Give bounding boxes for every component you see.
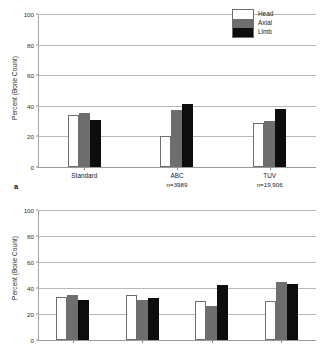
bar-group [108,210,178,340]
bar-limb [182,104,193,167]
bar-group [38,14,131,167]
y-tick-label: 100 [24,11,34,18]
y-tick-label: 20 [27,311,34,318]
y-tick-label: 100 [24,207,34,214]
plot-area-b: 020406080100 [38,210,316,340]
bar-limb [90,120,101,167]
bar-axial [137,300,148,340]
y-tick-label: 60 [27,72,34,79]
bar-axial [206,306,217,340]
legend-label-head: Head [258,9,273,18]
y-tick-label: 80 [27,233,34,240]
legend-labels: Head Axial Limb [258,9,273,36]
legend-swatch-axial [233,19,253,28]
x-axis-group-label: ABCn=3989 [167,172,188,189]
bar-axial [264,121,275,167]
y-tick-label: 20 [27,133,34,140]
bar-head [265,301,276,340]
y-tick-label: 40 [27,102,34,109]
legend-swatch-limb [233,28,253,37]
bar-limb [78,300,89,340]
y-tick-label: 40 [27,285,34,292]
x-tick-mark [73,340,74,343]
bar-group [177,210,247,340]
bar-axial [79,113,90,167]
x-axis-group-label: Standard [71,172,97,181]
bar-head [126,295,137,341]
x-axis-group-sublabel: n=3989 [167,181,188,190]
y-tick-label: 60 [27,259,34,266]
bar-axial [171,110,182,167]
panel-letter-a: a [14,182,18,191]
x-tick-mark [177,167,178,170]
bar-limb [287,284,298,340]
bar-group [131,14,224,167]
x-axis-group-sublabel: n=19,906 [257,181,283,190]
plot-wrapper-b: Percent (Bone Count) 020406080100 [0,196,323,340]
x-tick-mark [212,340,213,343]
plot-area-a: 020406080100 StandardABCn=3989TUVn=19,90… [38,14,316,167]
x-tick-mark [281,340,282,343]
y-tick-label: 0 [31,337,34,344]
x-tick-mark [84,167,85,170]
plot-wrapper-a: Percent (Bone Count) 020406080100 Standa… [0,0,323,196]
x-tick-mark [270,167,271,170]
y-axis-title-b: Percent (Bone Count) [11,208,18,328]
bar-group [247,210,317,340]
y-tick-label: 0 [31,164,34,171]
legend-swatches [232,9,254,38]
bar-head [68,115,79,167]
y-tick-label: 80 [27,41,34,48]
x-tick-mark [142,340,143,343]
bar-head [56,297,67,340]
bar-head [195,301,206,340]
bar-head [160,136,171,167]
bar-limb [148,298,159,340]
bar-limb [217,285,228,340]
legend-label-limb: Limb [258,27,273,36]
y-axis-title-a: Percent (Bone Count) [11,28,18,148]
chart-panel-a: Percent (Bone Count) 020406080100 Standa… [0,0,323,196]
gridline [38,340,316,341]
chart-legend: Head Axial Limb [232,9,273,38]
chart-panel-b: Percent (Bone Count) 020406080100 [0,196,323,340]
bar-limb [275,109,286,167]
legend-label-axial: Axial [258,18,273,27]
x-axis-group-label: TUVn=19,906 [257,172,283,189]
bar-axial [67,295,78,340]
bar-group [38,210,108,340]
bar-head [253,123,264,167]
bar-axial [276,282,287,340]
legend-swatch-head [233,10,253,19]
